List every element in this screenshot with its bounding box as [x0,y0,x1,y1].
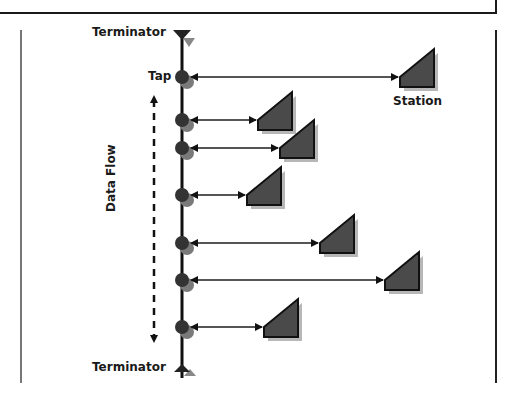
station-icon [258,92,292,130]
terminator-bottom-icon [174,364,196,376]
tap-node-icon [175,113,189,127]
station-icon [320,215,354,253]
tap-node-icon [175,188,189,202]
tap-station-1 [175,49,438,91]
terminator-bottom-label: Terminator [92,360,166,374]
tap-node-icon [175,320,189,334]
tap-station-4 [175,167,285,209]
station-icon [264,299,298,337]
tap-station-5 [175,215,358,257]
tap-node-icon [175,70,189,84]
station-label: Station [393,94,442,108]
tap-station-6 [175,252,423,294]
data-flow-arrow-icon [150,95,158,343]
tap-station-3 [175,120,318,162]
station-icon [400,49,434,87]
station-icon [385,252,419,290]
station-icon [247,167,281,205]
terminator-top-icon [173,30,195,47]
tap-station-2 [175,92,296,134]
terminator-top-label: Terminator [92,25,166,39]
data-flow-label: Data Flow [104,144,118,212]
tap-node-icon [175,273,189,287]
bus-topology-diagram [0,0,523,398]
tap-station-7 [175,299,302,341]
tap-label: Tap [148,69,171,83]
tap-node-icon [175,141,189,155]
tap-node-icon [175,236,189,250]
